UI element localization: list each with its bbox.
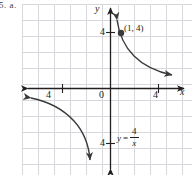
graph-figure: 5. a. bbox=[0, 0, 192, 175]
origin-label: 0 bbox=[99, 89, 104, 100]
equation-lhs: y bbox=[117, 133, 121, 143]
point-coordinate-label: (1, 4) bbox=[124, 23, 144, 33]
x-tick-label-4: 4 bbox=[153, 89, 158, 100]
y-tick-label-negative-4: 4 bbox=[100, 137, 105, 148]
equation-label: y = 4 x bbox=[117, 127, 139, 148]
equation-numerator: 4 bbox=[130, 127, 139, 136]
x-axis-label: x bbox=[180, 86, 184, 97]
y-axis-label: y bbox=[95, 3, 99, 14]
equation-equals: = bbox=[123, 133, 128, 143]
x-tick-label-negative-4: 4 bbox=[46, 89, 51, 100]
equation-denominator: x bbox=[130, 139, 138, 148]
graph-plot bbox=[0, 0, 192, 175]
curve-branch-negative bbox=[31, 98, 90, 160]
y-tick-label-4: 4 bbox=[100, 26, 105, 37]
equation-fraction: 4 x bbox=[130, 127, 139, 148]
